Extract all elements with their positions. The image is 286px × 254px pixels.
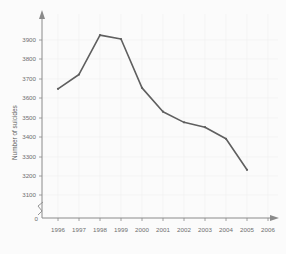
x-tick-label: 2006 xyxy=(261,226,275,233)
y-tick-label: 3500 xyxy=(22,114,36,121)
data-point xyxy=(162,111,164,113)
y-origin-label: 0 xyxy=(35,215,39,222)
data-point xyxy=(183,121,185,123)
y-tick-label: 3700 xyxy=(22,75,36,82)
data-point xyxy=(204,126,206,128)
data-point xyxy=(78,73,80,75)
x-tick-label: 2002 xyxy=(177,226,191,233)
y-tick-label: 3100 xyxy=(22,191,36,198)
y-tick-label: 3400 xyxy=(22,133,36,140)
line-chart: 3900 3800 3700 3600 3500 3400 3300 3200 … xyxy=(0,0,286,254)
y-tick-label: 3600 xyxy=(22,94,36,101)
chart-background xyxy=(0,0,286,254)
y-tick-label: 3300 xyxy=(22,153,36,160)
data-point xyxy=(141,87,143,89)
y-tick-label: 3900 xyxy=(22,36,36,43)
x-tick-label: 1996 xyxy=(51,226,65,233)
data-point xyxy=(120,38,122,40)
x-tick-labels: 1996 1997 1998 1999 2000 2001 2002 2003 … xyxy=(51,226,275,233)
data-point xyxy=(246,169,248,171)
x-tick-label: 1999 xyxy=(114,226,128,233)
x-tick-label: 2004 xyxy=(219,226,233,233)
x-tick-label: 1997 xyxy=(72,226,86,233)
x-tick-label: 2001 xyxy=(156,226,170,233)
y-axis-title: Number of suicides xyxy=(11,105,18,160)
x-tick-label: 1998 xyxy=(93,226,107,233)
data-point xyxy=(99,34,101,36)
data-point xyxy=(57,88,59,90)
y-tick-label: 3200 xyxy=(22,172,36,179)
y-tick-label: 3800 xyxy=(22,55,36,62)
chart-container: 3900 3800 3700 3600 3500 3400 3300 3200 … xyxy=(0,0,286,254)
x-tick-label: 2000 xyxy=(135,226,149,233)
x-tick-label: 2005 xyxy=(240,226,254,233)
data-point xyxy=(225,138,227,140)
x-tick-label: 2003 xyxy=(198,226,212,233)
